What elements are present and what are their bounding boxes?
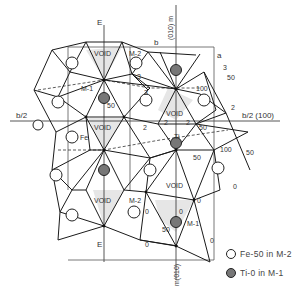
svg-text:0: 0 [179,208,183,215]
svg-text:M-1: M-1 [81,85,93,92]
fe-atom [66,131,78,143]
svg-text:0: 0 [197,197,201,204]
polyhedra-network [34,42,250,262]
legend-fe-icon [227,250,236,259]
axis-b-half-left: b/2 [16,111,28,120]
fe-atom [66,57,78,69]
svg-text:0: 0 [145,241,149,248]
fe-atom [66,209,78,221]
axis-e-bottom: E [97,240,102,249]
svg-text:50: 50 [199,124,207,131]
svg-text:3: 3 [144,89,148,96]
fe-atom [50,169,62,181]
svg-text:VOID: VOID [94,50,111,57]
axis-mirror-bottom: m(010) [173,264,181,286]
svg-text:50: 50 [162,226,170,233]
svg-text:100: 100 [196,85,208,92]
svg-text:M-2: M-2 [129,197,141,204]
svg-text:Ti: Ti [174,133,180,140]
legend-ti-label: Ti-0 in M-1 [240,268,284,278]
fe-atom [212,162,224,174]
svg-text:2: 2 [143,124,147,131]
axis-b-half-right: b/2 (100) [242,111,274,120]
fe-atom [128,206,140,218]
svg-text:VOID: VOID [94,197,111,204]
svg-text:0: 0 [210,237,214,244]
ti-atom [171,65,182,76]
svg-text:VOID: VOID [94,124,111,131]
svg-text:M-1: M-1 [187,220,199,227]
svg-text:3: 3 [137,73,141,80]
fe-atom [52,96,64,108]
crystal-structure-diagram: E E (010) m m(010) b/2 b/2 (100) b a VOI… [0,0,308,292]
svg-text:VOID: VOID [166,110,183,117]
fe-atom [198,94,210,106]
svg-text:2: 2 [186,119,190,126]
axis-a: a [217,51,222,60]
svg-text:3: 3 [223,64,227,71]
svg-text:0: 0 [145,208,149,215]
legend: Fe-50 in M-2 Ti-0 in M-1 [227,249,292,278]
axis-mirror-top: (010) m [167,16,175,40]
fe-atom [144,164,156,176]
fe-atom [33,120,43,130]
svg-text:0: 0 [233,183,237,190]
svg-text:50: 50 [246,149,254,156]
svg-text:50: 50 [193,154,201,161]
legend-ti-icon [227,269,236,278]
axis-e-top: E [97,18,102,27]
fe-atom [130,57,142,69]
svg-text:2: 2 [164,119,168,126]
svg-text:VOID: VOID [166,182,183,189]
axis-b: b [154,38,159,47]
svg-text:M-2: M-2 [129,50,141,57]
svg-text:2: 2 [231,104,235,111]
svg-text:50: 50 [227,74,235,81]
ti-atom [171,217,182,228]
legend-fe-label: Fe-50 in M-2 [240,249,292,259]
ti-atom [99,165,110,176]
svg-text:100: 100 [220,146,232,153]
svg-text:Fe: Fe [80,134,88,141]
svg-text:50: 50 [107,102,115,109]
